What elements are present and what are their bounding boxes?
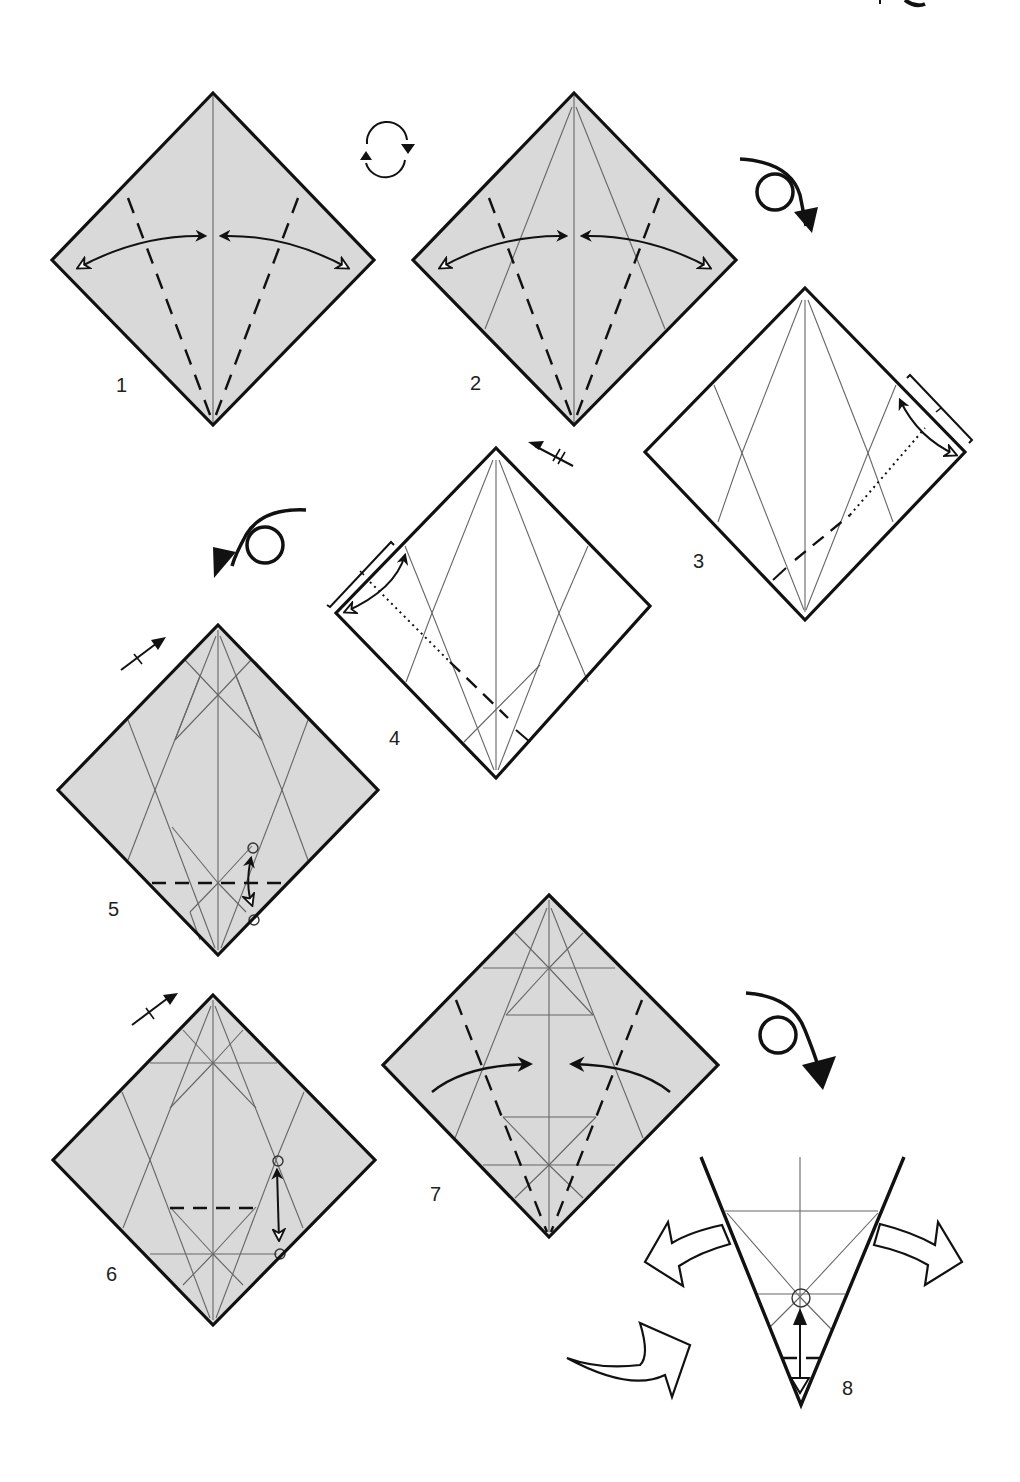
open-flap-arrow-right — [874, 1222, 962, 1285]
step-number-4: 4 — [389, 727, 400, 749]
turn-over-icon — [213, 510, 306, 578]
step-number-8: 8 — [842, 1377, 853, 1399]
step-number-5: 5 — [108, 898, 119, 920]
turn-over-icon — [740, 159, 818, 233]
open-flap-arrow-left — [645, 1222, 730, 1286]
step-6 — [53, 995, 375, 1325]
rotate-icon — [360, 122, 415, 177]
step-number-2: 2 — [470, 372, 481, 394]
step-1 — [52, 93, 374, 425]
page-corner-mark — [880, 0, 925, 5]
step-number-3: 3 — [693, 550, 704, 572]
repeat-behind-arrow — [132, 993, 178, 1025]
step-5 — [58, 625, 378, 955]
step-number-6: 6 — [106, 1263, 117, 1285]
push-arrow — [567, 1323, 690, 1397]
repeat-behind-arrow — [528, 441, 573, 466]
repeat-behind-arrow — [121, 637, 166, 670]
origami-diagram: 1 2 3 4 5 6 7 8 — [0, 0, 1020, 1482]
turn-over-icon — [746, 993, 836, 1090]
step-4 — [327, 448, 650, 778]
step-number-7: 7 — [430, 1183, 441, 1205]
step-2 — [413, 93, 736, 425]
step-number-1: 1 — [116, 374, 127, 396]
step-8 — [567, 1157, 962, 1405]
